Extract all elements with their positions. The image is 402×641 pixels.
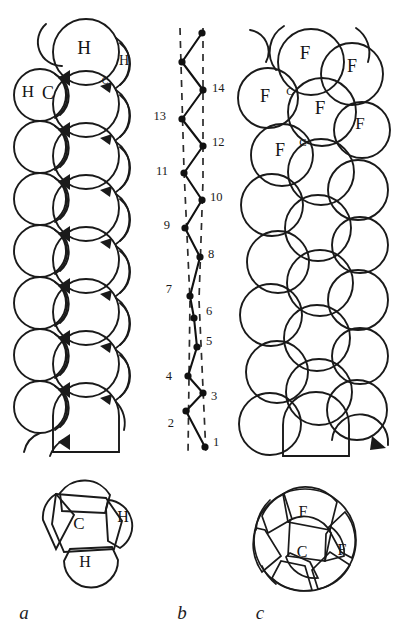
atom-label-c: C	[102, 75, 109, 86]
atom-label-f: F	[338, 541, 347, 558]
atom-label-h: H	[79, 553, 91, 570]
backbone-vertex	[201, 443, 208, 450]
backbone-number: 8	[208, 247, 214, 261]
backbone-number: 2	[168, 416, 174, 430]
atom-label-f: F	[275, 140, 285, 160]
atom-label-f: F	[300, 42, 311, 63]
backbone-number: 13	[154, 109, 167, 123]
panel-letter-b: b	[177, 602, 187, 623]
backbone-number: 3	[211, 389, 217, 403]
backbone-number: 7	[166, 282, 172, 296]
backbone-vertex	[190, 314, 197, 321]
backbone-number: 9	[164, 218, 170, 232]
atom-label-f: F	[347, 56, 357, 76]
atom-label-f: F	[355, 114, 364, 133]
backbone-vertex	[186, 292, 193, 299]
backbone-number: 1	[213, 435, 219, 449]
atom-label-c: C	[73, 514, 84, 533]
atom-label-f: F	[299, 503, 308, 520]
backbone-number: 5	[206, 334, 212, 348]
backbone-vertex	[199, 142, 206, 149]
backbone-vertex	[198, 196, 205, 203]
figure-root: H H H C C	[0, 0, 402, 641]
atom-label-f: F	[260, 86, 270, 106]
backbone-vertex	[178, 115, 185, 122]
backbone-number: 11	[156, 164, 168, 178]
backbone-vertex	[193, 343, 200, 350]
backbone-vertex	[199, 86, 206, 93]
atom-label-h: H	[22, 82, 34, 101]
backbone-vertex	[184, 372, 191, 379]
atom-label-f: F	[315, 97, 326, 118]
atom-label-c: C	[297, 543, 308, 560]
atom-label-h: H	[77, 37, 91, 58]
figure-svg: H H H C C	[0, 0, 402, 641]
backbone-number: 10	[210, 190, 223, 204]
backbone-vertex	[198, 29, 205, 36]
atom-label-c: C	[42, 83, 54, 103]
backbone-vertex	[199, 389, 206, 396]
panel-letter-c: c	[256, 602, 265, 623]
backbone-vertex	[178, 58, 185, 65]
panel-letter-a: a	[19, 602, 29, 623]
backbone-number: 4	[166, 369, 173, 383]
backbone-number: 14	[212, 81, 225, 95]
backbone-vertex	[196, 253, 203, 260]
backbone-vertex	[181, 224, 188, 231]
atom-label-c: C	[299, 136, 306, 148]
atom-label-h: H	[117, 508, 129, 525]
backbone-vertex	[182, 407, 189, 414]
atom-label-c: C	[286, 85, 293, 97]
backbone-number: 12	[212, 135, 225, 149]
backbone-vertex	[180, 169, 187, 176]
backbone-number: 6	[206, 304, 212, 318]
atom-label-h: H	[119, 53, 129, 68]
